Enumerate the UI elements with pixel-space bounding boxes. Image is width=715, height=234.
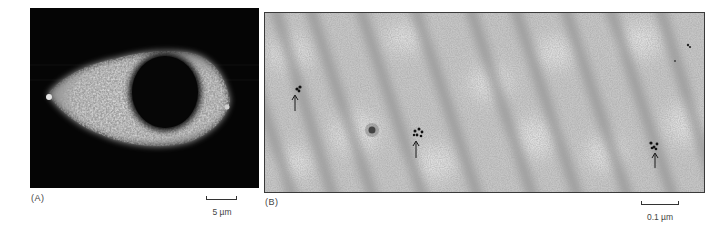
panel-b-electron-micrograph (264, 12, 705, 193)
panel-a-label: (A) (31, 193, 45, 203)
panel-b-label: (B) (265, 197, 279, 207)
up-arrow-icon (292, 95, 298, 111)
panel-b-scale-bar (641, 201, 679, 205)
panel-b-scale-label: 0.1 µm (636, 212, 684, 222)
annotation-arrows (265, 13, 705, 193)
cell-fluorescence-graphic (30, 8, 259, 188)
panel-a-scale-bar (206, 196, 237, 200)
panel-a-scale-label: 5 µm (200, 207, 244, 217)
panel-a-fluorescence-image (30, 8, 259, 188)
up-arrow-icon (652, 153, 658, 168)
up-arrow-icon (413, 141, 419, 158)
